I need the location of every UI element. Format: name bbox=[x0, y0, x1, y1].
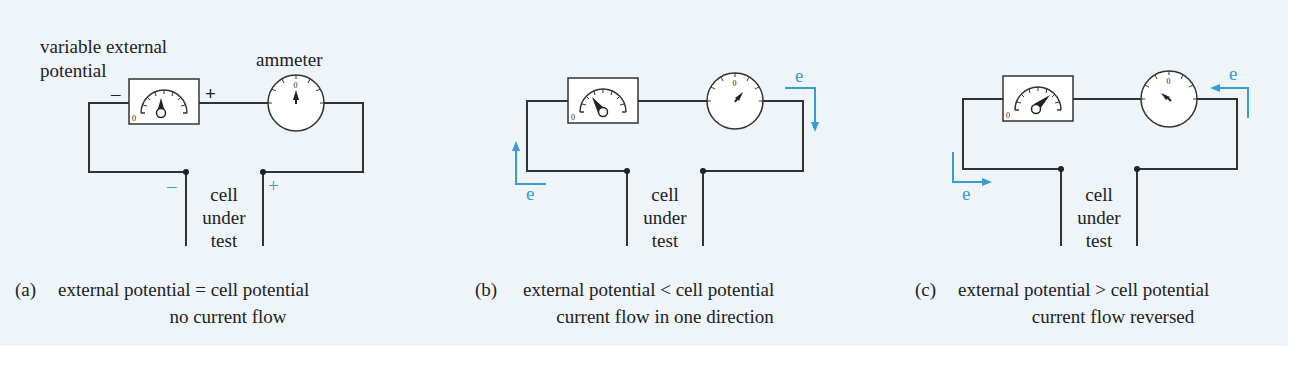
caption-b-line1: external potential < cell potential bbox=[523, 279, 774, 300]
electron-label: e bbox=[1229, 63, 1237, 84]
cell-label-3: test bbox=[211, 230, 238, 251]
source-minus-sign: – bbox=[110, 83, 121, 104]
panel-b: e e cell under test (b) external potenti… bbox=[475, 65, 819, 327]
cell-label-1: cell bbox=[651, 184, 678, 205]
cell-minus-sign: – bbox=[166, 175, 177, 196]
variable-external-label-2: potential bbox=[40, 60, 106, 81]
cell-label-1: cell bbox=[210, 184, 237, 205]
cell-label-3: test bbox=[652, 230, 679, 251]
electron-label: e bbox=[795, 65, 803, 86]
panel-a: variable external potential ammeter – + … bbox=[15, 36, 363, 327]
caption-a-line1: external potential = cell potential bbox=[58, 279, 309, 300]
variable-external-label-1: variable external bbox=[40, 36, 167, 57]
terminal-dot bbox=[1058, 166, 1064, 172]
cell-label-2: under bbox=[643, 207, 687, 228]
terminal-dot bbox=[260, 169, 266, 175]
caption-letter-c: (c) bbox=[915, 279, 936, 301]
electron-flow-arrow-left: e bbox=[512, 141, 546, 204]
electron-flow-arrow-right: e bbox=[1210, 63, 1248, 118]
ammeter-label: ammeter bbox=[256, 49, 323, 70]
electron-label: e bbox=[526, 183, 534, 204]
caption-c-line1: external potential > cell potential bbox=[958, 279, 1209, 300]
caption-letter-b: (b) bbox=[475, 279, 497, 301]
electron-flow-arrow-left: e bbox=[953, 152, 992, 204]
cell-plus-sign: + bbox=[268, 175, 279, 196]
terminal-dot bbox=[700, 168, 706, 174]
terminal-dot bbox=[183, 169, 189, 175]
cell-label-1: cell bbox=[1085, 184, 1112, 205]
caption-b-line2: current flow in one direction bbox=[556, 306, 774, 327]
caption-letter-a: (a) bbox=[15, 279, 36, 301]
cell-label-2: under bbox=[1077, 207, 1121, 228]
electron-label: e bbox=[962, 183, 970, 204]
terminal-dot bbox=[1134, 166, 1140, 172]
variable-source-meter bbox=[1003, 76, 1073, 121]
terminal-dot bbox=[624, 168, 630, 174]
panel-c: e e cell under test (c) external potenti… bbox=[915, 63, 1248, 327]
source-plus-sign: + bbox=[205, 83, 216, 104]
caption-c-line2: current flow reversed bbox=[1032, 306, 1195, 327]
caption-a-line2: no current flow bbox=[169, 306, 286, 327]
cell-label-3: test bbox=[1086, 230, 1113, 251]
cell-label-2: under bbox=[202, 207, 246, 228]
circuit-figure: 0 0 variable external potential ammeter bbox=[0, 0, 1300, 368]
